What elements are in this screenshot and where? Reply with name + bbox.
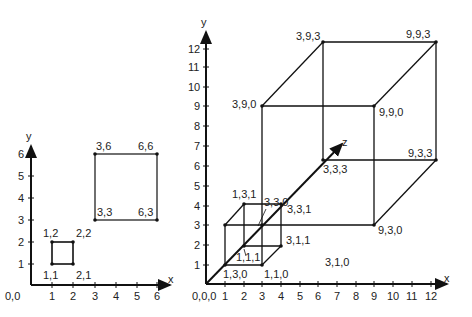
label: 2	[18, 236, 24, 248]
label: z	[342, 136, 348, 148]
label: 9	[194, 100, 200, 112]
label: 1	[222, 290, 228, 302]
label: 11	[406, 290, 417, 302]
label: 1,1	[43, 269, 58, 281]
label: 1,1,1	[236, 251, 260, 263]
label: 3,3	[97, 206, 112, 218]
right-plot	[203, 32, 447, 287]
label: 12	[188, 43, 200, 55]
label: 9,3,3	[408, 147, 432, 159]
label: 4	[278, 290, 284, 302]
label: 3,6	[96, 140, 111, 152]
label: 1,2	[43, 227, 58, 239]
small-square	[52, 242, 73, 264]
label: 8	[353, 290, 359, 302]
label: 9,9,0	[379, 106, 403, 118]
label: 0,0,0	[192, 290, 216, 302]
label: 0,0	[5, 290, 20, 302]
label: 2	[241, 290, 247, 302]
label: x	[444, 272, 450, 284]
label: 3,3,1	[287, 203, 311, 215]
label: 6	[194, 160, 200, 172]
label: 8	[194, 120, 200, 132]
label: 3	[92, 290, 98, 302]
label: 1,3,1	[232, 188, 256, 200]
label: 12	[425, 290, 437, 302]
label: 2,2	[76, 227, 91, 239]
label: 5	[194, 180, 200, 192]
label: 7	[194, 140, 200, 152]
label: 3,1,0	[325, 256, 349, 268]
label: 3,3,3	[323, 163, 347, 175]
label: 1,1,0	[264, 268, 288, 280]
label: 4	[18, 192, 24, 204]
label: 6,3	[138, 206, 153, 218]
label: 2,1	[76, 269, 91, 281]
label: x	[168, 273, 174, 285]
label: 6	[18, 148, 24, 160]
label: 5	[297, 290, 303, 302]
label: 4	[113, 290, 119, 302]
label: 9,9,3	[406, 28, 430, 40]
label: 5	[134, 290, 140, 302]
label: 3,9,0	[232, 98, 256, 110]
label: 9	[371, 290, 377, 302]
label: 9,3,0	[378, 224, 402, 236]
label: 3,3,0	[264, 196, 288, 208]
label: 1	[18, 258, 24, 270]
label: 11	[188, 61, 199, 73]
right-labels: x y z 0,0,0 1 2 3 4 5 6 7 8 9 10 11 12 1…	[188, 16, 450, 302]
label: 7	[334, 290, 340, 302]
right-z-axis	[206, 144, 342, 284]
label: y	[26, 130, 32, 142]
label: 1	[194, 259, 200, 271]
label: 6,6	[138, 140, 153, 152]
label: 10	[188, 81, 200, 93]
label: 3,1,1	[286, 234, 310, 246]
label: 1,3,0	[223, 268, 247, 280]
label: 3	[194, 219, 200, 231]
label: y	[201, 16, 207, 28]
label: 2	[70, 290, 76, 302]
label: 6	[315, 290, 321, 302]
diagram-canvas: x y 0,0 1 2 3 4 5 6 1 2 3 4 5 6 1,1 2,1 …	[0, 0, 472, 317]
label: 5	[18, 170, 24, 182]
label: 3	[18, 214, 24, 226]
label: 10	[387, 290, 399, 302]
label: 4	[194, 200, 200, 212]
label: 3	[259, 290, 265, 302]
label: 6	[154, 290, 160, 302]
label: 3,9,3	[296, 30, 320, 42]
label: 1	[49, 290, 55, 302]
label: 2	[194, 239, 200, 251]
